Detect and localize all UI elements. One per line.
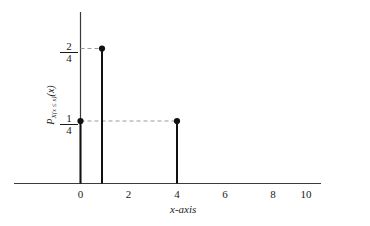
x-axis-title-text: x-axis xyxy=(170,203,196,215)
x-tick-label-8: 8 xyxy=(262,188,284,200)
x-tick-label-4: 4 xyxy=(166,188,188,200)
y-axis-title-argument: (x) xyxy=(45,85,56,96)
x-tick-label-10: 10 xyxy=(295,188,317,200)
y-axis-title-subscript-main: X xyxy=(50,114,58,118)
x-tick-label-6: 6 xyxy=(214,188,236,200)
x-tick-label-0: 0 xyxy=(70,188,92,200)
chart-figure: 2 4 1 4 0 2 4 6 8 10 x-axis PX(x ≤ s)(x) xyxy=(0,0,370,226)
y-axis-title-text: PX(x ≤ s)(x) xyxy=(46,85,58,124)
y-axis-title-subscript-detail: (x ≤ s) xyxy=(50,96,58,114)
x-tick-label-2: 2 xyxy=(118,188,140,200)
y-axis-title: PX(x ≤ s)(x) xyxy=(44,72,60,138)
y-tick-label-one-fourth: 1 4 xyxy=(60,113,78,136)
y-axis-title-symbol: P xyxy=(45,119,56,125)
y-tick-label-two-fourths: 2 4 xyxy=(60,41,78,64)
x-axis-title: x-axis xyxy=(170,203,196,215)
data-point-x1 xyxy=(99,45,105,51)
data-point-x4 xyxy=(174,118,180,124)
data-point-x0 xyxy=(77,118,83,124)
